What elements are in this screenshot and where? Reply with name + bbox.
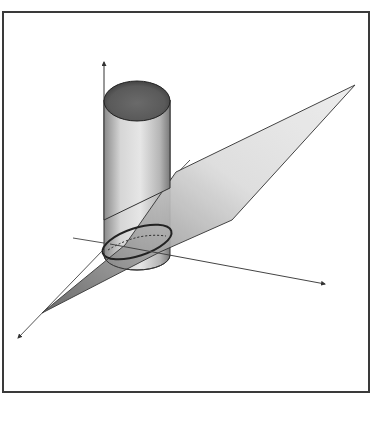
caption-area bbox=[0, 400, 371, 430]
cutting-plane bbox=[42, 85, 355, 313]
cylinder-top-cap bbox=[104, 81, 170, 121]
diagram-canvas bbox=[0, 0, 371, 437]
